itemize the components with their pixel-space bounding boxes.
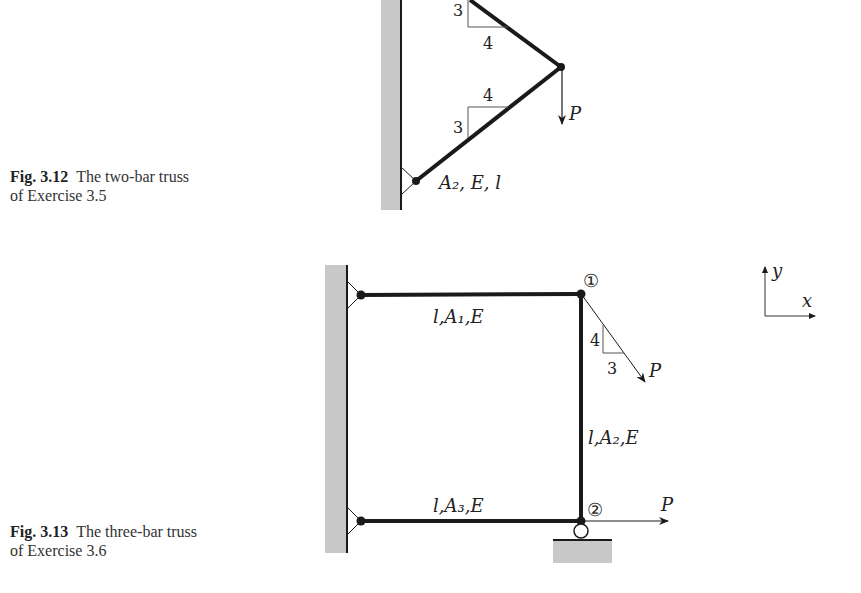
bar-1-label: l,A₁,E <box>433 306 484 327</box>
wall-ground <box>325 265 346 553</box>
node-2-label: ② <box>587 499 603 520</box>
roller-icon <box>574 524 588 538</box>
coordinate-axes: y x <box>765 260 815 316</box>
y-axis-label: y <box>771 260 783 281</box>
pin-joint <box>357 517 366 526</box>
slope-rise: 3 <box>453 1 463 20</box>
bar-3-label: l,A₃,E <box>433 495 484 516</box>
slope-run: 4 <box>483 34 493 53</box>
slope-run: 4 <box>483 86 493 105</box>
x-axis-label: x <box>802 290 812 311</box>
node-1-label: ① <box>583 270 599 291</box>
bar-label: A₂, E, l <box>437 172 501 193</box>
load-1-label: P <box>648 360 662 381</box>
bar-1 <box>361 294 581 295</box>
load-2-label: P <box>660 494 674 515</box>
bar-2 <box>416 67 561 181</box>
truss-diagrams: 3 4 3 4 P A₂, E, l <box>0 0 861 593</box>
slope-rise: 4 <box>590 331 600 350</box>
pin-joint <box>412 177 420 185</box>
load-label: P <box>568 103 582 124</box>
three-bar-truss: ① ② l,A₁,E l,A₂,E l,A₃,E 4 3 P P y x <box>325 260 815 563</box>
pin-joint <box>357 291 366 300</box>
load-joint <box>557 63 565 71</box>
slope-run: 3 <box>607 359 617 378</box>
slope-rise: 3 <box>453 118 463 137</box>
roller-ground <box>553 541 612 563</box>
two-bar-truss: 3 4 3 4 P A₂, E, l <box>381 0 582 210</box>
textbook-page: Fig. 3.12 The two-bar truss of Exercise … <box>0 0 861 593</box>
wall-ground <box>381 0 400 210</box>
bar-2-label: l,A₂,E <box>588 427 639 448</box>
